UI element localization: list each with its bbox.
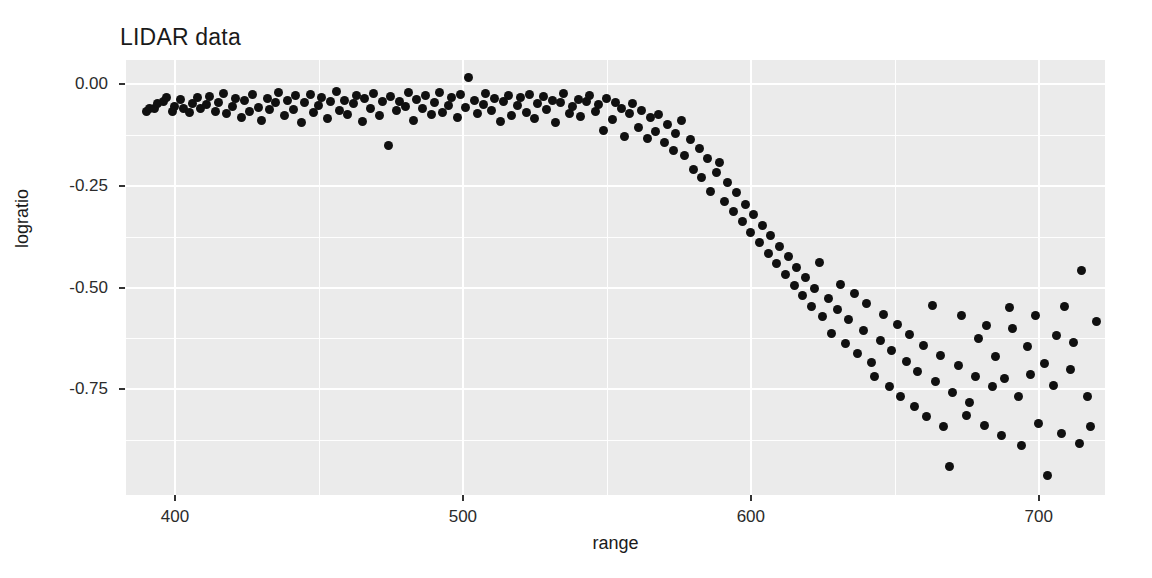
- data-point: [470, 96, 479, 105]
- data-point: [202, 100, 211, 109]
- data-point: [936, 351, 945, 360]
- gridline-minor-horizontal: [126, 237, 1105, 238]
- data-point: [228, 102, 237, 111]
- y-tick-mark: [119, 388, 125, 390]
- data-point: [758, 221, 767, 230]
- gridline-major-horizontal: [126, 287, 1105, 289]
- data-point: [628, 99, 637, 108]
- gridline-minor-horizontal: [126, 440, 1105, 441]
- data-point: [300, 98, 309, 107]
- data-point: [862, 299, 871, 308]
- gridline-major-vertical: [462, 60, 464, 495]
- data-point: [257, 116, 266, 125]
- x-tick-mark: [462, 495, 464, 501]
- data-point: [352, 91, 361, 100]
- data-point: [602, 94, 611, 103]
- data-point: [522, 108, 531, 117]
- data-point: [945, 462, 954, 471]
- data-point: [749, 210, 758, 219]
- data-point: [291, 91, 300, 100]
- data-point: [971, 372, 980, 381]
- plot-panel: [126, 60, 1105, 495]
- data-point: [378, 97, 387, 106]
- data-point: [1075, 439, 1084, 448]
- gridline-minor-horizontal: [126, 338, 1105, 339]
- data-point: [283, 96, 292, 105]
- data-point: [1014, 392, 1023, 401]
- data-point: [306, 90, 315, 99]
- data-point: [746, 228, 755, 237]
- data-point: [473, 109, 482, 118]
- data-point: [931, 377, 940, 386]
- data-point: [1092, 317, 1101, 326]
- data-point: [453, 113, 462, 122]
- data-point: [646, 113, 655, 122]
- data-point: [231, 94, 240, 103]
- data-point: [375, 111, 384, 120]
- data-point: [836, 280, 845, 289]
- data-point: [686, 135, 695, 144]
- data-point: [539, 92, 548, 101]
- x-tick-label: 700: [1025, 507, 1053, 527]
- gridline-major-vertical: [750, 60, 752, 495]
- data-point: [507, 111, 516, 120]
- x-tick-mark: [1038, 495, 1040, 501]
- data-point: [214, 98, 223, 107]
- data-point: [853, 349, 862, 358]
- data-point: [810, 284, 819, 293]
- data-point: [732, 188, 741, 197]
- data-point: [741, 200, 750, 209]
- data-point: [461, 103, 470, 112]
- gridline-minor-horizontal: [126, 135, 1105, 136]
- data-point: [715, 158, 724, 167]
- data-point: [240, 96, 249, 105]
- data-point: [481, 89, 490, 98]
- data-point: [775, 242, 784, 251]
- data-point: [559, 89, 568, 98]
- data-point: [827, 329, 836, 338]
- data-point: [798, 291, 807, 300]
- data-point: [784, 252, 793, 261]
- data-point: [254, 103, 263, 112]
- data-point: [349, 99, 358, 108]
- data-point: [625, 109, 634, 118]
- data-point: [654, 110, 663, 119]
- data-point: [980, 421, 989, 430]
- data-point: [671, 129, 680, 138]
- data-point: [841, 339, 850, 348]
- data-point: [456, 90, 465, 99]
- data-point: [766, 231, 775, 240]
- data-point: [680, 151, 689, 160]
- data-point: [464, 73, 473, 82]
- data-point: [289, 105, 298, 114]
- data-point: [326, 97, 335, 106]
- gridline-major-vertical: [174, 60, 176, 495]
- data-point: [689, 165, 698, 174]
- data-point: [1052, 331, 1061, 340]
- data-point: [248, 90, 257, 99]
- data-point: [205, 92, 214, 101]
- data-point: [928, 301, 937, 310]
- data-point: [608, 115, 617, 124]
- y-axis-title: logratio: [12, 139, 33, 299]
- data-point: [781, 270, 790, 279]
- data-point: [867, 358, 876, 367]
- data-point: [772, 259, 781, 268]
- data-point: [576, 112, 585, 121]
- data-point: [922, 412, 931, 421]
- data-point: [1026, 370, 1035, 379]
- data-point: [982, 321, 991, 330]
- data-point: [850, 289, 859, 298]
- data-point: [369, 89, 378, 98]
- data-point: [274, 88, 283, 97]
- data-point: [859, 326, 868, 335]
- data-point: [824, 294, 833, 303]
- data-point: [317, 93, 326, 102]
- data-point: [435, 88, 444, 97]
- data-point: [430, 98, 439, 107]
- data-point: [444, 101, 453, 110]
- data-point: [358, 117, 367, 126]
- data-point: [617, 104, 626, 113]
- data-point: [219, 89, 228, 98]
- data-point: [335, 106, 344, 115]
